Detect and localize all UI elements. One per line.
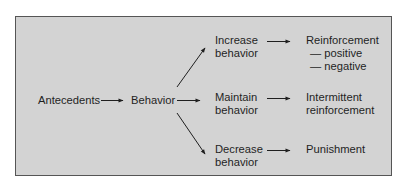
node-antecedents: Antecedents: [38, 94, 100, 108]
node-punishment: Punishment: [306, 143, 365, 157]
node-maintain-line2: behavior: [215, 104, 258, 118]
node-increase-line2: behavior: [215, 47, 258, 61]
node-intermittent-line2: reinforcement: [306, 104, 374, 118]
node-decrease-line2: behavior: [215, 156, 258, 170]
node-increase-line1: Increase: [215, 34, 258, 48]
node-reinforcement-title: Reinforcement: [306, 34, 379, 48]
node-maintain-line1: Maintain: [215, 91, 257, 105]
node-decrease-line1: Decrease: [215, 143, 263, 157]
node-reinforcement-positive: — positive: [310, 47, 362, 61]
node-reinforcement-negative: — negative: [310, 60, 367, 74]
node-behavior: Behavior: [131, 94, 175, 108]
node-intermittent-line1: Intermittent: [306, 91, 362, 105]
